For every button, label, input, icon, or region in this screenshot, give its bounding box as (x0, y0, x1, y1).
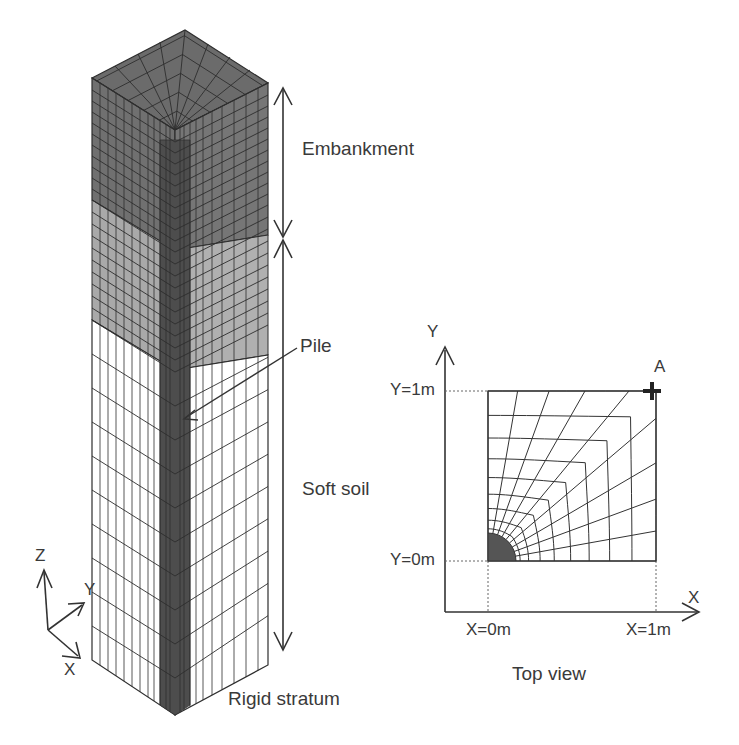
soft-soil-dimension-arrow (274, 240, 292, 650)
top-view-label: Top view (512, 663, 586, 685)
y-1m-label: Y=1m (390, 380, 435, 400)
pile-label: Pile (300, 335, 332, 357)
axis-x-iso-label: X (64, 660, 75, 680)
axis-y-top-label: Y (427, 322, 438, 342)
xyz-axis-triad (37, 570, 84, 658)
x-0m-label: X=0m (466, 620, 511, 640)
axis-z-label: Z (35, 546, 45, 566)
axis-y-iso-label: Y (84, 580, 95, 600)
pile-column (160, 140, 190, 715)
embankment-label: Embankment (302, 138, 414, 160)
axis-x-top-label: X (688, 588, 699, 608)
rigid-stratum-label: Rigid stratum (228, 688, 340, 710)
x-1m-label: X=1m (626, 620, 671, 640)
point-a-label: A (654, 357, 665, 377)
top-view-diagram (436, 347, 699, 621)
y-0m-label: Y=0m (390, 550, 435, 570)
embankment-dimension-arrow (274, 88, 292, 237)
soft-soil-label: Soft soil (302, 478, 370, 500)
